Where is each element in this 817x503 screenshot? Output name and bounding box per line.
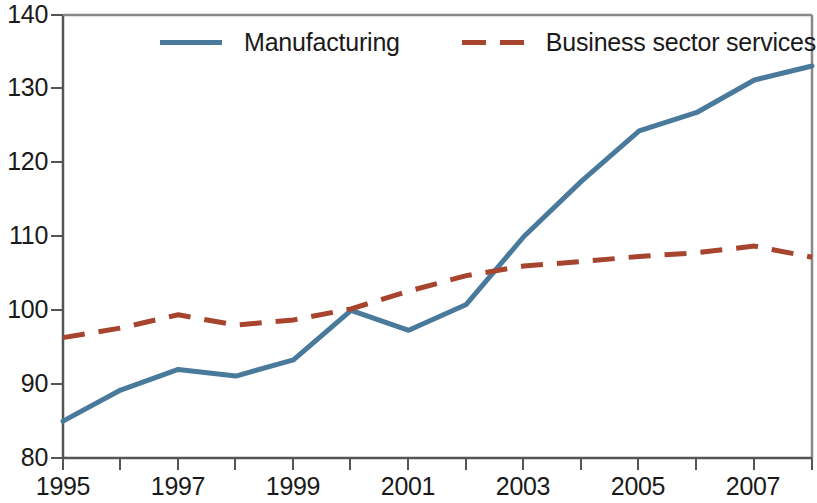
x-tick-label-2007: 2007 (708, 474, 798, 499)
x-axis-ticks (63, 458, 812, 470)
chart-legend: Manufacturing Business sector services (160, 30, 816, 55)
legend-swatch-manufacturing (160, 40, 222, 45)
series-line-manufacturing (63, 66, 812, 421)
y-tick-label-130: 130 (0, 75, 48, 100)
legend-label-business-sector-services: Business sector services (546, 30, 816, 55)
y-tick-label-110: 110 (0, 223, 48, 248)
y-tick-label-100: 100 (0, 297, 48, 322)
x-tick-label-1995: 1995 (18, 474, 108, 499)
legend-entry-manufacturing: Manufacturing (160, 30, 400, 55)
line-chart: 140 130 120 110 100 90 80 1995 1997 1999… (0, 0, 817, 503)
series-line-business-sector-services (63, 246, 812, 338)
y-tick-label-120: 120 (0, 149, 48, 174)
x-tick-label-1999: 1999 (248, 474, 338, 499)
x-tick-label-2003: 2003 (478, 474, 568, 499)
y-tick-label-90: 90 (0, 371, 48, 396)
x-tick-label-2001: 2001 (363, 474, 453, 499)
x-tick-label-2005: 2005 (593, 474, 683, 499)
y-tick-label-140: 140 (0, 2, 48, 27)
plot-frame (63, 15, 812, 458)
y-axis-ticks (51, 15, 63, 458)
x-tick-label-1997: 1997 (133, 474, 223, 499)
legend-label-manufacturing: Manufacturing (244, 30, 400, 55)
legend-swatch-business-sector-services (462, 40, 524, 45)
y-tick-label-80: 80 (0, 445, 48, 470)
legend-entry-business-sector-services: Business sector services (462, 30, 816, 55)
plot-canvas (0, 0, 817, 503)
